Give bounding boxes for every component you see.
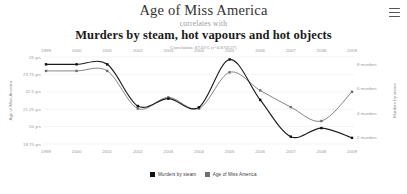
x-axis-tick-bottom: 2006: [255, 149, 265, 154]
x-axis-tick-top: 2009: [347, 48, 357, 53]
hamburger-menu-icon[interactable]: [389, 8, 400, 17]
x-axis-tick-top: 2008: [317, 48, 327, 53]
x-axis-tick-bottom: 2009: [347, 149, 357, 154]
spurious-correlation-chart-page: Age of Miss America correlates with Murd…: [0, 0, 407, 194]
data-point[interactable]: [45, 63, 47, 65]
x-axis-tick-top: 2005: [225, 48, 235, 53]
data-point[interactable]: [167, 97, 169, 99]
x-axis-tick-bottom: 2005: [225, 149, 235, 154]
legend-label-murders: Murders by steam: [158, 172, 196, 177]
x-axis-tick-bottom: 2003: [164, 149, 174, 154]
title-connector: correlates with: [0, 19, 407, 28]
x-axis-tick-top: 2003: [164, 48, 174, 53]
menu-bar-1: [389, 8, 400, 9]
x-axis-tick-bottom: 2007: [286, 149, 296, 154]
data-point[interactable]: [320, 127, 322, 129]
data-point[interactable]: [106, 70, 108, 72]
y-axis-right-title: Murders by steam: [392, 83, 397, 118]
x-axis-tick-top: 1999: [41, 48, 51, 53]
y-axis-left-tick: 23.75 yrs: [23, 72, 42, 77]
title-primary: Age of Miss America: [0, 0, 407, 19]
x-axis-tick-top: 2007: [286, 48, 296, 53]
y-axis-left-tick: 25 yrs: [29, 55, 42, 60]
x-axis-tick-top: 2004: [194, 48, 204, 53]
x-axis-tick-bottom: 2008: [317, 149, 327, 154]
legend-item-age[interactable]: Age of Miss America: [205, 172, 256, 177]
x-axis-tick-bottom: 2001: [102, 149, 112, 154]
data-point[interactable]: [106, 63, 108, 65]
menu-bar-2: [389, 12, 400, 13]
legend-label-age: Age of Miss America: [213, 172, 257, 177]
y-axis-left-tick: 21.25 yrs: [23, 107, 42, 112]
data-point[interactable]: [290, 106, 292, 108]
x-axis-tick-top: 2002: [133, 48, 143, 53]
y-axis-right-tick: 6 murders: [357, 86, 378, 91]
x-axis-tick-top: 2006: [255, 48, 265, 53]
data-point[interactable]: [351, 137, 353, 139]
y-axis-left-tick: 20 yrs: [29, 124, 42, 129]
y-axis-right-tick: 2 murders: [357, 135, 378, 140]
legend-marker-age: [205, 172, 210, 177]
y-axis-left-tick: 18.75 yrs: [23, 142, 42, 147]
data-point[interactable]: [228, 58, 230, 60]
chart-legend: Murders by steam Age of Miss America: [0, 172, 407, 177]
chart-plot-area: 25 yrs23.75 yrs22.5 yrs21.25 yrs20 yrs18…: [0, 44, 407, 172]
menu-bar-3: [389, 16, 400, 17]
legend-item-murders[interactable]: Murders by steam: [150, 172, 196, 177]
series-line-murders: [46, 59, 352, 137]
x-axis-tick-bottom: 1999: [41, 149, 51, 154]
series-line-age: [46, 68, 352, 121]
y-axis-right-tick: 8 murders: [357, 62, 378, 67]
x-axis-tick-bottom: 2004: [194, 149, 204, 154]
x-axis-tick-top: 2000: [72, 48, 82, 53]
y-axis-right-tick: 4 murders: [357, 111, 378, 116]
data-point[interactable]: [137, 105, 139, 107]
x-axis-tick-top: 2001: [102, 48, 112, 53]
x-axis-tick-bottom: 2002: [133, 149, 143, 154]
data-point[interactable]: [259, 89, 261, 91]
data-point[interactable]: [75, 70, 77, 72]
x-axis-tick-bottom: 2000: [72, 149, 82, 154]
data-point[interactable]: [137, 107, 139, 109]
data-point[interactable]: [198, 106, 200, 108]
data-point[interactable]: [45, 70, 47, 72]
title-secondary: Murders by steam, hot vapours and hot ob…: [0, 28, 407, 43]
line-chart-svg: 25 yrs23.75 yrs22.5 yrs21.25 yrs20 yrs18…: [0, 44, 407, 172]
data-point[interactable]: [320, 120, 322, 122]
legend-marker-murders: [150, 172, 155, 177]
data-point[interactable]: [259, 99, 261, 101]
y-axis-left-title: Age of Miss America: [8, 80, 13, 121]
data-point[interactable]: [75, 63, 77, 65]
data-point[interactable]: [228, 71, 230, 73]
data-point[interactable]: [351, 91, 353, 93]
data-point[interactable]: [290, 135, 292, 137]
y-axis-left-tick: 22.5 yrs: [25, 89, 41, 94]
